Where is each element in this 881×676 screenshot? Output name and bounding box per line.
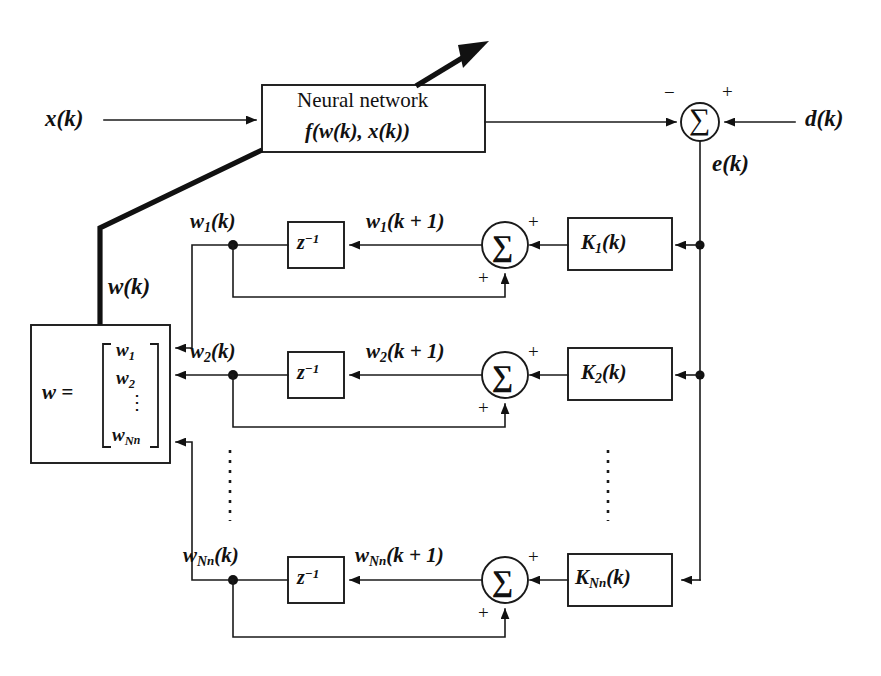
gain-label-row2: K2(k) [581, 362, 626, 386]
label-state-row2: w2(k) [190, 341, 235, 365]
sigma-glyph-main: ∑ [689, 104, 710, 134]
label-weight-vector-wk: w(k) [108, 275, 150, 298]
label-desired-d: d(k) [805, 107, 843, 130]
label-next-row2: w2(k + 1) [366, 341, 444, 365]
gain-label-row3: KNn(k) [575, 567, 631, 591]
sigma-glyph-row3: ∑ [492, 566, 513, 596]
diagram-canvas: x(k) d(k) e(k) w(k) Neural network f(w(k… [0, 0, 881, 676]
delay-label-row3: z−1 [297, 567, 319, 587]
label-input-x: x(k) [45, 107, 83, 130]
label-next-row3: wNn(k + 1) [355, 545, 444, 569]
weight-entry-1: w1 [116, 340, 135, 362]
sign-minus-main: − [664, 83, 675, 102]
error-bus [682, 141, 705, 580]
label-next-row1: w1(k + 1) [366, 211, 444, 235]
delay-label-row2: z−1 [297, 362, 319, 382]
sign-plus-row2-bottom: + [478, 398, 489, 417]
label-error-e: e(k) [712, 152, 749, 175]
delay-label-row1: z−1 [297, 232, 319, 252]
label-state-row1: w1(k) [190, 211, 235, 235]
weight-box-label: w = [42, 382, 73, 403]
sign-plus-main: + [722, 82, 733, 101]
neural-network-function: f(w(k), x(k)) [305, 121, 410, 142]
sigma-glyph-row1: ∑ [492, 231, 513, 261]
gain-label-row1: K1(k) [581, 232, 626, 256]
row-3-wires [176, 442, 672, 637]
network-output-thick-arrow [416, 41, 489, 86]
neural-network-title: Neural network [297, 90, 428, 111]
sign-plus-row2-right: + [528, 342, 539, 361]
sign-plus-row1-bottom: + [478, 268, 489, 287]
label-state-row3: wNn(k) [183, 545, 239, 569]
sign-plus-row3-bottom: + [478, 603, 489, 622]
weight-entry-vdots: ⋮ [127, 392, 147, 412]
sigma-glyph-row2: ∑ [492, 361, 513, 391]
ellipsis-markers [230, 450, 608, 521]
weight-entry-n: wNn [112, 425, 140, 447]
sign-plus-row3-right: + [528, 547, 539, 566]
block-diagram-svg [0, 0, 881, 676]
weight-entry-2: w2 [116, 368, 135, 390]
sign-plus-row1-right: + [528, 212, 539, 231]
